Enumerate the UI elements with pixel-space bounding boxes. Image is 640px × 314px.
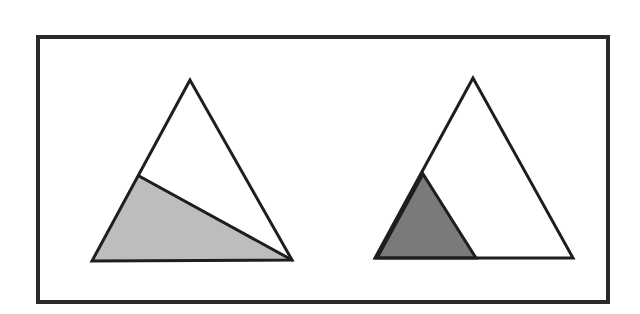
right-figure: [375, 78, 573, 258]
diagram-svg: [0, 0, 640, 314]
left-figure: [92, 80, 292, 261]
diagram-canvas: [0, 0, 640, 314]
